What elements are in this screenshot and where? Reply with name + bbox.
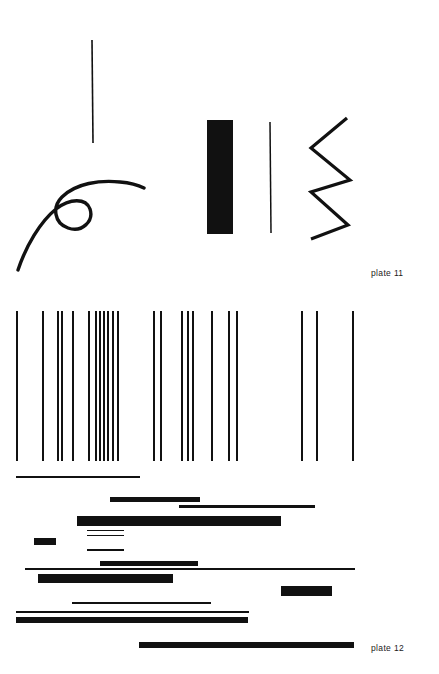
vertical-rule-1 <box>16 311 18 461</box>
vertical-rule-13 <box>153 311 155 461</box>
vertical-rule-9 <box>103 311 105 461</box>
plate-11-artwork <box>0 0 439 290</box>
plate-12-caption: plate 12 <box>371 643 404 653</box>
bar-medium-upper-left <box>110 497 200 502</box>
bar-heavy-bottom-right <box>139 642 354 648</box>
vertical-stroke-thin-tall <box>92 40 93 143</box>
vertical-rule-23 <box>352 311 354 461</box>
bar-hairline-full-width <box>25 568 355 570</box>
bar-block-right <box>281 586 332 596</box>
vertical-rule-11 <box>112 311 114 461</box>
vertical-rule-7 <box>95 311 97 461</box>
bar-small-block-left <box>34 538 56 545</box>
hairline-vertical-stroke <box>270 122 271 233</box>
vertical-rule-2 <box>42 311 44 461</box>
vertical-rule-19 <box>228 311 230 461</box>
vertical-rule-5 <box>72 311 74 461</box>
vertical-rule-20 <box>236 311 238 461</box>
bar-hairline-pair-lower <box>87 535 124 536</box>
vertical-rule-6 <box>88 311 90 461</box>
vertical-rule-21 <box>301 311 303 461</box>
bar-hairline-top <box>16 476 140 478</box>
vertical-rule-12 <box>117 311 119 461</box>
vertical-rule-3 <box>57 311 59 461</box>
bar-heavy-wide <box>77 516 281 526</box>
vertical-rule-18 <box>211 311 213 461</box>
looping-curve <box>18 181 144 270</box>
bar-heavy-bottom-left <box>16 617 248 623</box>
bar-heavy-left <box>38 574 173 583</box>
bar-thin-short-mid <box>87 549 124 551</box>
vertical-rule-16 <box>187 311 189 461</box>
vertical-rule-15 <box>181 311 183 461</box>
vertical-rule-22 <box>316 311 318 461</box>
thick-solid-bar-vertical <box>207 120 233 234</box>
vertical-rule-8 <box>99 311 101 461</box>
vertical-rule-17 <box>192 311 194 461</box>
bar-hairline-pair-upper <box>87 530 124 531</box>
vertical-rule-14 <box>160 311 162 461</box>
vertical-rule-10 <box>107 311 109 461</box>
bar-thin-upper-right <box>179 505 315 508</box>
bar-medium-center <box>100 561 198 566</box>
zigzag-stroke <box>311 118 350 239</box>
bar-hairline-lower <box>16 611 249 613</box>
bar-thin-long-lower <box>72 602 211 604</box>
vertical-rule-4 <box>61 311 63 461</box>
scanned-page: plate 11 plate 12 <box>0 0 439 674</box>
plate-11-caption: plate 11 <box>371 268 403 278</box>
